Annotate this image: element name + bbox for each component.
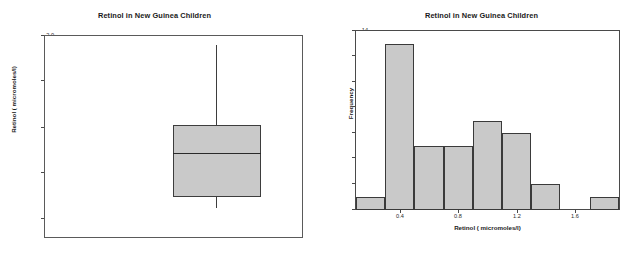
histogram-y-axis-label: Frequency xyxy=(347,69,354,139)
boxplot-upper-whisker xyxy=(216,45,217,125)
histogram-bar-4 xyxy=(473,121,502,211)
histogram-bar-1 xyxy=(385,44,414,210)
boxplot-y-axis-label: Retinol ( micromoles/l) xyxy=(10,55,17,145)
boxplot-title: Retinol in New Guinea Children xyxy=(0,11,321,20)
boxplot-lower-whisker xyxy=(216,197,217,208)
histogram-xtick-1-2: 1.2 xyxy=(507,213,527,219)
histogram-xtickmark-1-6 xyxy=(575,210,576,213)
boxplot-median-line xyxy=(173,153,261,154)
histogram-bar-3 xyxy=(444,146,473,210)
boxplot-plot-frame xyxy=(44,35,303,238)
histogram-xtickmark-0-8 xyxy=(458,210,459,213)
histogram-bar-0 xyxy=(356,197,385,210)
boxplot-box xyxy=(173,125,261,197)
histogram-xtick-0-4: 0.4 xyxy=(390,213,410,219)
histogram-bar-5 xyxy=(502,133,531,210)
histogram-xtickmark-1-2 xyxy=(517,210,518,213)
figure-container: Retinol in New Guinea Children Retinol (… xyxy=(0,0,642,264)
histogram-x-axis-label: Retinol ( micromoles/l) xyxy=(355,224,620,231)
histogram-bar-6 xyxy=(531,184,560,210)
histogram-title: Retinol in New Guinea Children xyxy=(321,11,642,20)
boxplot-panel: Retinol in New Guinea Children Retinol (… xyxy=(0,0,321,264)
histogram-bars-group xyxy=(356,31,619,210)
histogram-xtick-1-6: 1.6 xyxy=(565,213,585,219)
histogram-bar-2 xyxy=(414,146,443,210)
histogram-bar-8 xyxy=(590,197,619,210)
histogram-panel: Retinol in New Guinea Children Frequency… xyxy=(321,0,642,264)
histogram-xtickmark-0-4 xyxy=(400,210,401,213)
histogram-xtick-0-8: 0.8 xyxy=(448,213,468,219)
